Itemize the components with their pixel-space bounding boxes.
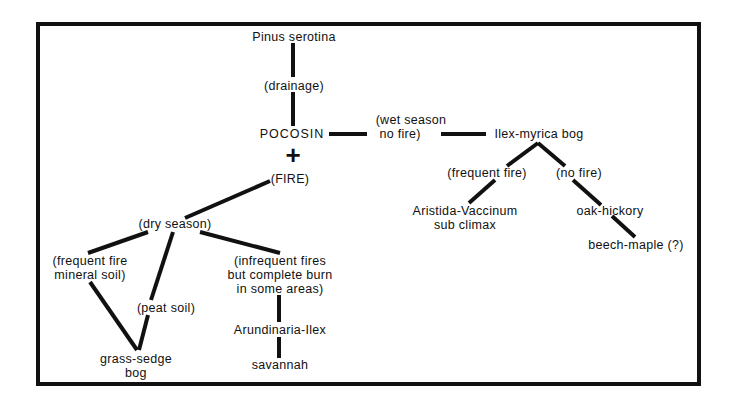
label-frequent-fire: (frequent fire) (447, 166, 527, 180)
node-grass-sedge-bog: grass-sedge bog (100, 352, 172, 380)
node-aristida-vaccinum: Aristida-Vaccinum sub climax (413, 204, 518, 232)
node-pocosin: POCOSIN (260, 127, 325, 141)
node-savannah: savannah (252, 358, 309, 372)
label-dry-season: (dry season) (138, 217, 211, 231)
label-fire: (FIRE) (271, 172, 310, 186)
label-drainage: (drainage) (264, 79, 324, 93)
label-peat-soil: (peat soil) (137, 301, 195, 315)
plus-icon: + (285, 142, 300, 168)
node-oak-hickory: oak-hickory (576, 204, 643, 218)
node-ilex-myrica-bog: Ilex-myrica bog (494, 127, 583, 141)
label-no-fire: (no fire) (556, 166, 602, 180)
node-pinus-serotina: Pinus serotina (252, 30, 335, 44)
node-arundinaria-ilex: Arundinaria-Ilex (234, 323, 326, 337)
label-frequent-fire-mineral-soil: (frequent fire mineral soil) (52, 254, 127, 282)
label-infrequent-fires: (infrequent fires but complete burn in s… (227, 254, 332, 296)
label-wet-season-no-fire: (wet season no fire) (376, 113, 447, 141)
node-beech-maple: beech-maple (?) (588, 238, 684, 252)
